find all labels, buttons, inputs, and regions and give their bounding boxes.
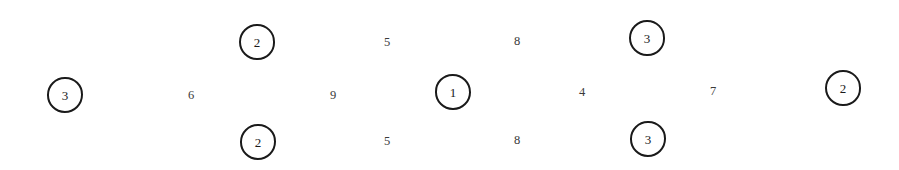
node-label: 2 (255, 135, 262, 148)
node-label: 2 (840, 81, 847, 94)
circled-node-3[interactable]: 3 (47, 77, 83, 113)
node-label: 2 (254, 35, 261, 48)
node-label: 6 (188, 89, 194, 102)
node-label: 3 (645, 132, 652, 145)
node-label: 9 (330, 89, 336, 102)
plain-node-9[interactable]: 9 (325, 87, 341, 103)
circled-node-2[interactable]: 2 (239, 24, 275, 60)
node-label: 5 (384, 36, 390, 49)
plain-node-5[interactable]: 5 (379, 133, 395, 149)
circled-node-2[interactable]: 2 (825, 70, 861, 106)
node-label: 8 (514, 134, 520, 147)
node-label: 4 (579, 86, 585, 99)
node-label: 3 (62, 88, 69, 101)
node-label: 8 (514, 35, 520, 48)
circled-node-2[interactable]: 2 (240, 124, 276, 160)
node-label: 3 (644, 31, 651, 44)
node-label: 5 (384, 135, 390, 148)
node-label: 7 (710, 85, 716, 98)
circled-node-3[interactable]: 3 (630, 121, 666, 157)
plain-node-8[interactable]: 8 (509, 132, 525, 148)
diagram-canvas: 362295518843372 (0, 0, 899, 170)
plain-node-8[interactable]: 8 (509, 33, 525, 49)
node-label: 1 (450, 85, 457, 98)
circled-node-1[interactable]: 1 (435, 74, 471, 110)
circled-node-3[interactable]: 3 (629, 20, 665, 56)
plain-node-6[interactable]: 6 (183, 87, 199, 103)
plain-node-7[interactable]: 7 (705, 83, 721, 99)
plain-node-5[interactable]: 5 (379, 34, 395, 50)
plain-node-4[interactable]: 4 (574, 84, 590, 100)
